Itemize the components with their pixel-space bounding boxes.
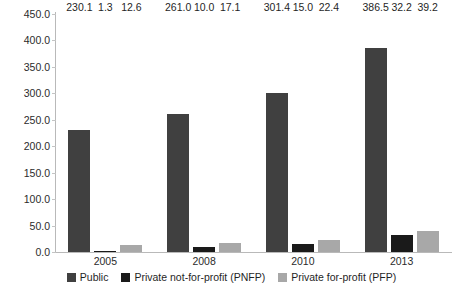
- bar-value-label: 39.2: [417, 2, 437, 13]
- bar-value-label: 386.5: [362, 2, 388, 13]
- bar-value-label: 10.0: [194, 2, 214, 13]
- legend-item[interactable]: Public: [67, 272, 109, 283]
- y-axis-tick-mark: [52, 226, 56, 227]
- bar-slot: 22.4: [318, 14, 340, 252]
- bar-value-label: 22.4: [319, 2, 339, 13]
- x-axis-tick-label: 2005: [56, 255, 155, 267]
- bar-group: 261.010.017.1: [155, 14, 254, 252]
- y-axis-tick-label: 0.0: [6, 247, 50, 257]
- legend-label: Private not-for-profit (PNFP): [134, 272, 265, 283]
- legend-swatch-icon: [121, 273, 130, 282]
- y-axis-tick-mark: [52, 40, 56, 41]
- bar[interactable]: [266, 93, 288, 252]
- bar-slot: 301.4: [266, 14, 288, 252]
- legend-item[interactable]: Private for-profit (PFP): [278, 272, 396, 283]
- bar-slot: 1.3: [94, 14, 116, 252]
- bar-value-label: 1.3: [98, 2, 113, 13]
- y-axis-tick-label: 300.0: [6, 88, 50, 98]
- x-axis-tick-label: 2008: [155, 255, 254, 267]
- y-axis-tick-labels: 0.050.0100.0150.0200.0250.0300.0350.0400…: [0, 0, 50, 293]
- bar-value-label: 301.4: [264, 2, 290, 13]
- bar-group-bars: 301.415.022.4: [254, 14, 353, 252]
- bar[interactable]: [417, 231, 439, 252]
- x-axis-tick-label: 2010: [254, 255, 353, 267]
- legend-item[interactable]: Private not-for-profit (PNFP): [121, 272, 265, 283]
- plot-area: 230.11.312.6261.010.017.1301.415.022.438…: [56, 14, 451, 252]
- bar[interactable]: [68, 130, 90, 252]
- bar-group: 230.11.312.6: [56, 14, 155, 252]
- bar-value-label: 15.0: [293, 2, 313, 13]
- y-axis-tick-mark: [52, 93, 56, 94]
- bar-group-bars: 261.010.017.1: [155, 14, 254, 252]
- y-axis-tick-label: 400.0: [6, 35, 50, 45]
- bar[interactable]: [120, 245, 142, 252]
- bar-value-label: 32.2: [391, 2, 411, 13]
- y-axis-tick-label: 100.0: [6, 194, 50, 204]
- bar-group: 386.532.239.2: [352, 14, 451, 252]
- bar[interactable]: [219, 243, 241, 252]
- bar-group-bars: 386.532.239.2: [352, 14, 451, 252]
- bar-slot: 386.5: [365, 14, 387, 252]
- bar-slot: 15.0: [292, 14, 314, 252]
- bar[interactable]: [318, 240, 340, 252]
- bar-value-label: 12.6: [121, 2, 141, 13]
- bar-slot: 261.0: [167, 14, 189, 252]
- y-axis-tick-mark: [52, 14, 56, 15]
- bar-slot: 230.1: [68, 14, 90, 252]
- y-axis-tick-label: 200.0: [6, 141, 50, 151]
- bar-value-label: 230.1: [66, 2, 92, 13]
- x-axis-tick-label: 2013: [352, 255, 451, 267]
- bar-slot: 39.2: [417, 14, 439, 252]
- legend-swatch-icon: [67, 273, 76, 282]
- y-axis-tick-label: 250.0: [6, 115, 50, 125]
- y-axis-tick-label: 50.0: [6, 221, 50, 231]
- y-axis-tick-mark: [52, 146, 56, 147]
- legend-label: Private for-profit (PFP): [291, 272, 396, 283]
- bar-group-bars: 230.11.312.6: [56, 14, 155, 252]
- legend-label: Public: [80, 272, 109, 283]
- bar-slot: 10.0: [193, 14, 215, 252]
- y-axis-tick-label: 150.0: [6, 168, 50, 178]
- y-axis-tick-mark: [52, 252, 56, 253]
- bar[interactable]: [94, 251, 116, 252]
- bar-slot: 17.1: [219, 14, 241, 252]
- bar[interactable]: [391, 235, 413, 252]
- bar[interactable]: [167, 114, 189, 252]
- y-axis-tick-mark: [52, 67, 56, 68]
- y-axis-tick-mark: [52, 199, 56, 200]
- x-axis-line: [56, 252, 452, 253]
- legend-swatch-icon: [278, 273, 287, 282]
- bar[interactable]: [292, 244, 314, 252]
- y-axis-tick-label: 450.0: [6, 9, 50, 19]
- y-axis-tick-mark: [52, 173, 56, 174]
- y-axis-tick-label: 350.0: [6, 62, 50, 72]
- y-axis-tick-mark: [52, 120, 56, 121]
- bar[interactable]: [193, 247, 215, 252]
- bar-slot: 32.2: [391, 14, 413, 252]
- bar-slot: 12.6: [120, 14, 142, 252]
- chart-legend: PublicPrivate not-for-profit (PNFP)Priva…: [0, 272, 463, 283]
- bar-group: 301.415.022.4: [254, 14, 353, 252]
- bar-value-label: 17.1: [220, 2, 240, 13]
- bar-chart: 0.050.0100.0150.0200.0250.0300.0350.0400…: [0, 0, 463, 293]
- bar[interactable]: [365, 48, 387, 252]
- bar-value-label: 261.0: [165, 2, 191, 13]
